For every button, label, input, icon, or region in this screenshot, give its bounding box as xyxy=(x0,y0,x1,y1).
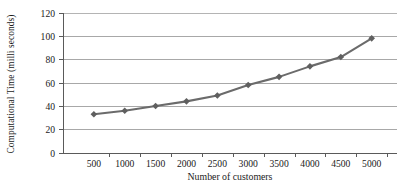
y-axis-title: Computational Time (milli seconds) xyxy=(0,0,22,168)
x-axis-tick-label: 2500 xyxy=(208,158,227,169)
gridline xyxy=(63,106,397,107)
x-axis-title: Number of customers xyxy=(0,171,414,182)
x-axis-tick-label: 4500 xyxy=(331,158,350,169)
y-axis-tick-label: 120 xyxy=(41,7,55,18)
y-axis-tick-labels: 020406080100120 xyxy=(22,0,60,191)
x-axis-tick-mark xyxy=(171,153,172,157)
x-axis-tick-label: 1000 xyxy=(115,158,134,169)
x-axis-title-text: Number of customers xyxy=(142,171,273,182)
line-chart: Computational Time (milli seconds) 02040… xyxy=(0,0,414,191)
x-axis-tick-mark xyxy=(356,153,357,157)
x-axis-tick-label: 500 xyxy=(87,158,101,169)
plot-area xyxy=(63,13,397,153)
x-axis-tick-mark xyxy=(325,153,326,157)
y-axis-tick-mark xyxy=(59,59,63,60)
y-axis-tick-mark xyxy=(59,153,63,154)
x-axis-tick-label: 3500 xyxy=(269,158,288,169)
x-axis-tick-mark xyxy=(233,153,234,157)
x-axis-tick-mark xyxy=(202,153,203,157)
y-axis-tick-mark xyxy=(59,83,63,84)
y-axis-tick-label: 0 xyxy=(50,147,55,158)
x-axis-tick-mark xyxy=(140,153,141,157)
gridline xyxy=(63,59,397,60)
x-axis-tick-label: 5000 xyxy=(362,158,381,169)
y-axis-tick-label: 100 xyxy=(41,31,55,42)
x-axis-tick-mark xyxy=(109,153,110,157)
x-axis-tick-label: 3000 xyxy=(239,158,258,169)
y-axis-tick-mark xyxy=(59,129,63,130)
x-axis-tick-mark xyxy=(264,153,265,157)
y-axis-line xyxy=(63,13,64,154)
gridline xyxy=(63,36,397,37)
x-axis-tick-label: 2000 xyxy=(177,158,196,169)
y-axis-tick-label: 20 xyxy=(45,124,55,135)
y-axis-tick-mark xyxy=(59,106,63,107)
x-axis-line xyxy=(63,153,397,154)
gridline xyxy=(63,13,397,14)
x-axis-tick-label: 4000 xyxy=(300,158,319,169)
y-axis-title-text: Computational Time (milli seconds) xyxy=(6,14,16,153)
y-axis-tick-label: 40 xyxy=(45,101,55,112)
gridline xyxy=(63,83,397,84)
x-axis-tick-mark xyxy=(295,153,296,157)
y-axis-tick-mark xyxy=(59,13,63,14)
x-axis-tick-mark xyxy=(387,153,388,157)
y-axis-tick-mark xyxy=(59,36,63,37)
gridline xyxy=(63,129,397,130)
x-axis-tick-label: 1500 xyxy=(146,158,165,169)
y-axis-tick-label: 60 xyxy=(45,77,55,88)
y-axis-tick-label: 80 xyxy=(45,54,55,65)
